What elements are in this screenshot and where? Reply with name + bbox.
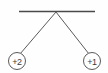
left-string-line [20,12,56,54]
suspended-charges-svg: +2 +1 [0,0,108,73]
diagram-canvas: +2 +1 [0,0,108,73]
right-string-line [56,12,89,54]
charge-left-label: +2 [12,57,22,67]
charge-right-label: +1 [87,57,97,67]
